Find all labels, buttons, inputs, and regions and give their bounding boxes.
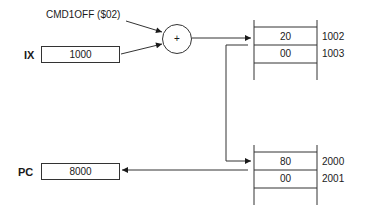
indexed-addressing-diagram: CMD1OFF ($02) + IX 1000 PC 8000 20 1002 … bbox=[0, 0, 369, 214]
memory-cell-1003-value: 00 bbox=[254, 45, 317, 63]
pointer-connector-arrow bbox=[226, 45, 251, 161]
memory-cell-1002-value: 20 bbox=[254, 28, 317, 46]
memory-cell-2000-address: 2000 bbox=[322, 156, 344, 168]
pc-register-label: PC bbox=[18, 166, 33, 178]
ix-arrow bbox=[121, 44, 162, 54]
pc-register-box: 8000 bbox=[41, 163, 120, 180]
offset-arrow bbox=[126, 21, 162, 32]
pc-register-value: 8000 bbox=[69, 166, 91, 177]
memory-cell-2000-value: 80 bbox=[254, 153, 317, 171]
plus-symbol: + bbox=[174, 33, 180, 44]
memory-cell-1002-address: 1002 bbox=[322, 31, 344, 43]
ix-register-label: IX bbox=[24, 49, 34, 61]
offset-label: CMD1OFF ($02) bbox=[46, 9, 120, 21]
memory-cell-1003-address: 1003 bbox=[322, 48, 344, 60]
ix-register-value: 1000 bbox=[69, 49, 91, 60]
ix-register-box: 1000 bbox=[41, 46, 120, 63]
adder-circle: + bbox=[162, 24, 192, 54]
memory-cell-2001-value: 00 bbox=[254, 170, 317, 188]
memory-cell-2001-address: 2001 bbox=[322, 173, 344, 185]
